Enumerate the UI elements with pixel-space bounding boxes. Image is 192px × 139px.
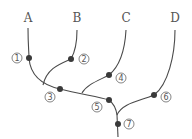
node-dot-5 xyxy=(106,97,112,103)
svg-text:1: 1 xyxy=(14,54,19,63)
svg-text:7: 7 xyxy=(126,120,131,129)
svg-text:2: 2 xyxy=(81,55,86,64)
taxon-label-b: B xyxy=(73,11,82,25)
node-tag-1: 1 xyxy=(12,53,22,63)
node-dot-4 xyxy=(106,72,112,78)
node-tag-6: 6 xyxy=(161,92,171,102)
taxon-label-d: D xyxy=(170,11,180,25)
node-tag-5: 5 xyxy=(92,102,102,112)
taxon-label-a: A xyxy=(23,11,33,25)
node-dot-6 xyxy=(151,92,157,98)
node-tag-4: 4 xyxy=(116,73,126,83)
phylogenetic-tree: A B C D 1 2 3 4 5 6 7 xyxy=(0,0,192,139)
node-dot-3 xyxy=(57,86,63,92)
node-tag-2: 2 xyxy=(79,54,89,64)
node-tag-7: 7 xyxy=(124,119,134,129)
svg-text:5: 5 xyxy=(94,103,99,112)
node-dot-7 xyxy=(115,121,121,127)
node-dot-2 xyxy=(68,56,74,62)
node-dot-1 xyxy=(26,55,32,61)
svg-text:6: 6 xyxy=(163,93,168,102)
svg-text:3: 3 xyxy=(47,93,52,102)
svg-text:4: 4 xyxy=(118,74,123,83)
taxon-label-c: C xyxy=(121,11,130,25)
node-tag-3: 3 xyxy=(45,92,55,102)
branch-a xyxy=(28,28,117,115)
